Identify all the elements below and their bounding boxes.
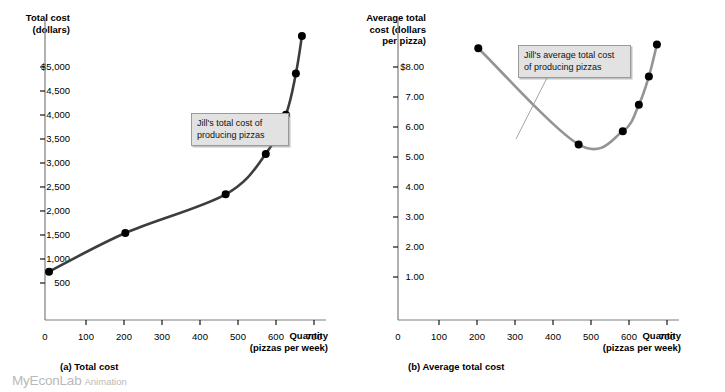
panel-caption-b: (b) Average total cost xyxy=(408,361,504,372)
callout-total-cost: Jill's total cost of producing pizzas xyxy=(191,113,289,146)
x-tick-marks xyxy=(86,320,314,325)
data-point xyxy=(619,127,627,135)
panel-average-total-cost: Average total cost (dollars per pizza) $… xyxy=(356,0,718,392)
brand-name: MyEconLab xyxy=(12,373,82,388)
callout-leader-line xyxy=(516,68,552,139)
chart-svg-total-cost xyxy=(0,0,362,392)
data-point xyxy=(645,73,653,81)
data-point xyxy=(222,190,230,198)
data-point xyxy=(575,140,583,148)
data-point xyxy=(474,44,482,52)
y-tick-marks xyxy=(393,67,398,277)
data-point xyxy=(298,32,306,40)
data-point xyxy=(45,268,53,276)
callout-average-total-cost: Jill's average total cost of producing p… xyxy=(518,45,631,78)
data-point xyxy=(292,70,300,78)
data-point xyxy=(653,40,661,48)
panel-total-cost: Total cost (dollars) $5,000 4,500 4,000 … xyxy=(0,0,362,392)
data-point xyxy=(635,101,643,109)
data-point xyxy=(262,150,270,158)
total-cost-data-points xyxy=(45,32,306,276)
y-tick-marks xyxy=(40,67,45,283)
x-tick-marks xyxy=(439,320,667,325)
myeconlab-branding: MyEconLabAnimation xyxy=(12,371,127,389)
figure-root: Total cost (dollars) $5,000 4,500 4,000 … xyxy=(0,0,725,392)
brand-suffix: Animation xyxy=(85,376,127,387)
data-point xyxy=(121,229,129,237)
